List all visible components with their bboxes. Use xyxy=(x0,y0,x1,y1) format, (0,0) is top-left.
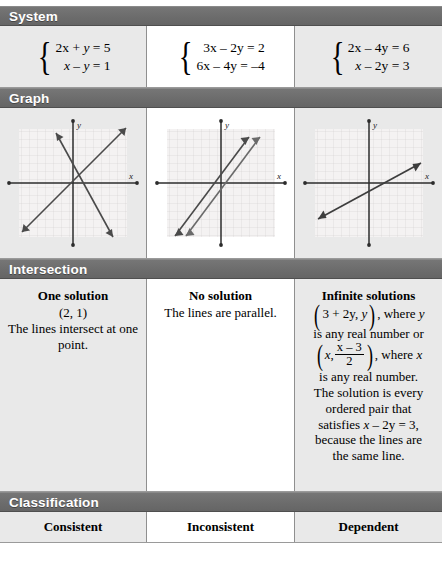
intersection-line-7-c: , xyxy=(416,417,419,432)
equation-3-2: x – 2y = 3 xyxy=(348,59,410,73)
classification-cell-1: Consistent xyxy=(0,512,147,542)
intersection-line-8: because the lines are xyxy=(315,432,422,448)
graph-x-label: x xyxy=(424,171,429,181)
ordered-pair-1-content: 3 + 2y, y xyxy=(322,306,367,321)
intersection-line-5: The solution is every xyxy=(314,385,423,401)
intersection-line-7-a: satisfies xyxy=(318,417,363,432)
summary-table-page: System { 2x + y = 5 x – y = 1 { 3x – 2y … xyxy=(0,0,442,569)
system-expression-3: { 2x – 4y = 6 x – 2y = 3 xyxy=(328,39,410,74)
graph-x-label: x xyxy=(276,171,281,181)
intersection-line-6: ordered pair that xyxy=(326,401,412,417)
system-expression-2: { 3x – 2y = 2 6x – 4y = –4 xyxy=(176,39,265,74)
section-header-graph: Graph xyxy=(0,88,442,108)
graph-coincident-lines: y x xyxy=(301,115,437,251)
graph-cell-3: y x xyxy=(295,108,442,258)
intersection-ordered-pair-2: (x,x – 32), where x xyxy=(315,342,422,369)
brace-icon: { xyxy=(38,39,52,74)
graph-cell-2: y x xyxy=(147,108,295,258)
fraction: x – 32 xyxy=(335,341,364,368)
paren-close-icon: ) xyxy=(367,344,373,365)
intersection-point-1: (2, 1) xyxy=(59,305,87,321)
intersection-body-2: The lines are parallel. xyxy=(164,305,277,321)
classification-cell-3: Dependent xyxy=(295,512,442,542)
brace-icon: { xyxy=(330,39,344,74)
classification-cell-2: Inconsistent xyxy=(147,512,295,542)
system-cell-1: { 2x + y = 5 x – y = 1 xyxy=(0,26,147,87)
intersection-line-9: the same line. xyxy=(333,448,405,464)
equation-3-1: 2x – 4y = 6 xyxy=(348,41,410,55)
graph-y-label: y xyxy=(372,120,377,130)
graph-intersecting-lines: y x xyxy=(5,115,141,251)
row-system: { 2x + y = 5 x – y = 1 { 3x – 2y = 2 6x … xyxy=(0,26,442,88)
row-classification: Consistent Inconsistent Dependent xyxy=(0,512,442,543)
fraction-numerator: x – 3 xyxy=(335,341,364,354)
intersection-line-7: satisfies x – 2y = 3, xyxy=(318,417,419,433)
intersection-cell-2: No solution The lines are parallel. xyxy=(147,279,295,491)
equation-1-2: x – y = 1 xyxy=(56,59,111,73)
graph-parallel-lines: y x xyxy=(153,115,289,251)
ordered-pair-2-suffix: , where x xyxy=(375,346,422,361)
intersection-cell-1: One solution (2, 1) The lines intersect … xyxy=(0,279,147,491)
intersection-title-2: No solution xyxy=(189,288,252,304)
brace-icon: { xyxy=(179,39,193,74)
system-cell-3: { 2x – 4y = 6 x – 2y = 3 xyxy=(295,26,442,87)
paren-close-icon: ) xyxy=(369,304,375,325)
equation-2-2: 6x – 4y = –4 xyxy=(196,59,264,73)
intersection-ordered-pair-1: (3 + 2y, y), where y xyxy=(312,305,424,326)
equation-1-1: 2x + y = 5 xyxy=(56,41,111,55)
section-header-intersection: Intersection xyxy=(0,259,442,279)
systems-summary-table: System { 2x + y = 5 x – y = 1 { 3x – 2y … xyxy=(0,6,442,543)
row-graph: y x xyxy=(0,108,442,259)
row-intersection: One solution (2, 1) The lines intersect … xyxy=(0,279,442,492)
ordered-pair-2-x: x, xyxy=(325,346,334,361)
graph-cell-1: y x xyxy=(0,108,147,258)
system-cell-2: { 3x – 2y = 2 6x – 4y = –4 xyxy=(147,26,295,87)
intersection-line-4: is any real number. xyxy=(319,369,418,385)
graph-x-label: x xyxy=(128,171,133,181)
fraction-denominator: 2 xyxy=(335,354,364,368)
intersection-line-7-equation: x – 2y = 3 xyxy=(363,417,415,432)
section-header-system: System xyxy=(0,6,442,26)
intersection-cell-3: Infinite solutions (3 + 2y, y), where y … xyxy=(295,279,442,491)
graph-y-label: y xyxy=(76,120,81,130)
equation-2-1: 3x – 2y = 2 xyxy=(196,41,264,55)
section-header-classification: Classification xyxy=(0,492,442,512)
intersection-body-1: The lines intersect at one point. xyxy=(7,321,139,353)
intersection-title-1: One solution xyxy=(38,288,108,304)
graph-y-label: y xyxy=(224,120,229,130)
ordered-pair-1-suffix: , where y xyxy=(377,306,424,321)
paren-open-icon: ( xyxy=(314,304,320,325)
system-expression-1: { 2x + y = 5 x – y = 1 xyxy=(35,39,110,74)
paren-open-icon: ( xyxy=(317,344,323,365)
